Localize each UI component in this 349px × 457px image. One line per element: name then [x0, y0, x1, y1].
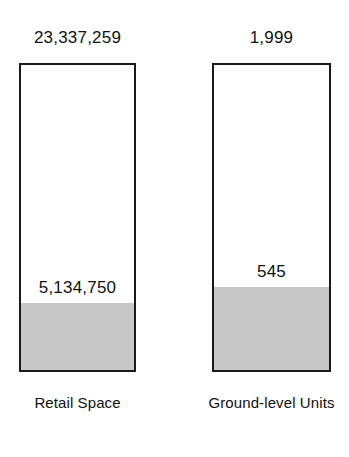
bar-chart: 23,337,259 5,134,750 Retail Space 1,999 …: [0, 0, 349, 457]
bar-category-label: Retail Space: [7, 392, 148, 413]
bar-category-label: Ground-level Units: [200, 392, 343, 413]
bar-fill: [21, 303, 134, 370]
bar-outline: [212, 63, 331, 372]
bar-outline: [19, 63, 136, 372]
bar-fill-value-label: 545: [212, 262, 331, 282]
bar-total-label: 23,337,259: [19, 28, 136, 48]
bar-fill-value-label: 5,134,750: [19, 278, 136, 298]
bar-fill: [214, 287, 329, 370]
bar-total-label: 1,999: [212, 28, 331, 48]
